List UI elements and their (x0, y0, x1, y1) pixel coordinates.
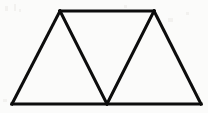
left-outer-edge-line (12, 11, 60, 104)
right-inner-diagonal-line (107, 11, 154, 104)
right-outer-edge-line (154, 11, 201, 104)
geometry-figure (0, 0, 208, 113)
figure-canvas (0, 0, 208, 113)
left-inner-diagonal-line (60, 11, 107, 104)
